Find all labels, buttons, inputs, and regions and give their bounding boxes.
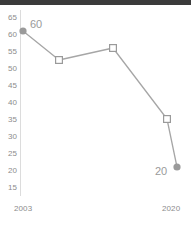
plot-area [0, 0, 191, 226]
data-point-marker-4[interactable] [164, 116, 171, 123]
data-point-marker-1[interactable] [19, 27, 26, 34]
data-point-marker-5[interactable] [173, 163, 180, 170]
x-tick-label-start: 2003 [14, 205, 32, 213]
line-chart: 65 60 55 50 45 40 35 30 25 20 15 60 20 2… [0, 0, 191, 226]
data-point-marker-2[interactable] [56, 57, 63, 64]
first-point-value-label: 60 [30, 19, 42, 30]
data-point-marker-3[interactable] [110, 45, 117, 52]
data-line [23, 31, 177, 167]
last-point-value-label: 20 [155, 166, 167, 177]
x-tick-label-end: 2020 [162, 205, 180, 213]
